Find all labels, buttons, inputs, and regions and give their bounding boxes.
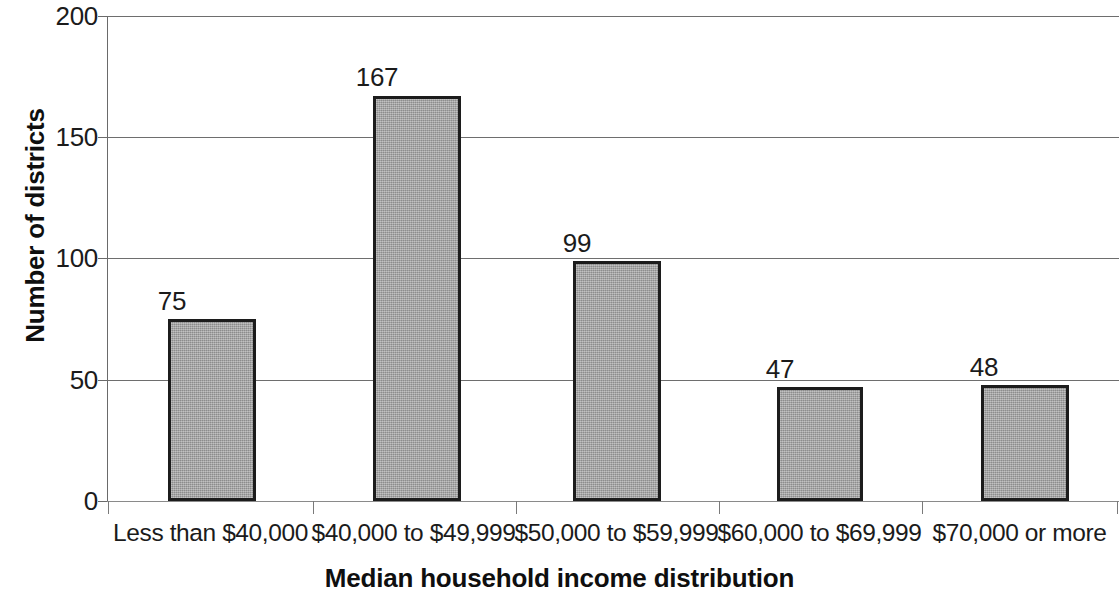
y-tick-mark-100 — [98, 258, 107, 259]
gridline-150 — [107, 137, 1119, 138]
bar-value-40000-to-49999: 167 — [333, 64, 421, 90]
y-tick-label-50: 50 — [28, 367, 98, 393]
y-tick-mark-200 — [98, 16, 107, 17]
gridline-baseline-0 — [107, 501, 1119, 502]
y-tick-label-200: 200 — [28, 3, 98, 29]
bar-value-60000-to-69999: 47 — [736, 356, 824, 382]
x-tick-label-60000-to-69999: $60,000 to $69,999 — [717, 518, 922, 548]
bar-chart: Number of districts 200 150 100 50 0 75 … — [0, 0, 1119, 599]
bar-40000-to-49999[interactable] — [373, 96, 461, 501]
bar-less-than-40000[interactable] — [168, 319, 256, 501]
y-tick-mark-150 — [98, 137, 107, 138]
bar-value-70000-or-more: 48 — [940, 354, 1028, 380]
x-tick-mark-5 — [1117, 501, 1118, 514]
bar-70000-or-more[interactable] — [981, 385, 1069, 501]
y-tick-label-150: 150 — [28, 124, 98, 150]
bar-60000-to-69999[interactable] — [777, 387, 863, 501]
plot-area — [107, 16, 1119, 501]
x-tick-mark-4 — [922, 501, 923, 514]
x-tick-label-40000-to-49999: $40,000 to $49,999 — [311, 518, 516, 548]
x-tick-label-70000-or-more: $70,000 or more — [920, 518, 1119, 548]
x-tick-mark-2 — [516, 501, 517, 514]
gridline-100 — [107, 258, 1119, 259]
y-tick-label-100: 100 — [28, 245, 98, 271]
bar-value-50000-to-59999: 99 — [533, 230, 621, 256]
x-tick-mark-1 — [313, 501, 314, 514]
y-tick-label-0: 0 — [28, 488, 98, 514]
bar-50000-to-59999[interactable] — [573, 261, 661, 501]
x-tick-mark-3 — [719, 501, 720, 514]
bar-value-less-than-40000: 75 — [128, 288, 216, 314]
y-tick-mark-50 — [98, 380, 107, 381]
gridline-200 — [107, 16, 1119, 17]
x-tick-mark-0 — [108, 501, 109, 514]
x-axis-title: Median household income distribution — [0, 563, 1119, 594]
y-tick-mark-0 — [98, 501, 107, 502]
x-tick-label-50000-to-59999: $50,000 to $59,999 — [514, 518, 719, 548]
x-tick-label-less-than-40000: Less than $40,000 — [108, 518, 313, 548]
